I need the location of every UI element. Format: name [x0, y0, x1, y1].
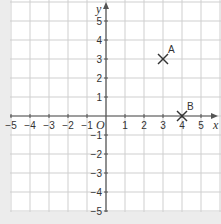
y-tick-label: −2 [91, 149, 103, 160]
point-label: B [187, 101, 194, 112]
y-tick-label: 5 [96, 16, 102, 27]
y-tick-label: −5 [91, 206, 103, 217]
coordinate-grid: −5−4−3−2−112345−5−4−3−2−112345 AB y x O [0, 0, 221, 224]
x-tick-label: 3 [160, 120, 166, 131]
x-tick-label: −3 [43, 120, 55, 131]
y-tick-label: −3 [91, 168, 103, 179]
x-tick-label: −5 [5, 120, 17, 131]
y-tick-label: 3 [96, 54, 102, 65]
y-tick-label: 4 [96, 35, 102, 46]
x-tick-label: −2 [62, 120, 74, 131]
x-tick-label: 2 [141, 120, 147, 131]
origin-label: O [96, 118, 105, 132]
y-tick-label: 1 [96, 92, 102, 103]
y-tick-label: −4 [91, 187, 103, 198]
x-tick-label: 4 [179, 120, 185, 131]
point-label: A [168, 44, 175, 55]
x-tick-label: 1 [122, 120, 128, 131]
y-axis-label: y [95, 2, 102, 16]
x-axis-label: x [212, 118, 219, 132]
y-tick-label: 2 [96, 73, 102, 84]
x-tick-label: −4 [24, 120, 36, 131]
x-tick-label: 5 [198, 120, 204, 131]
